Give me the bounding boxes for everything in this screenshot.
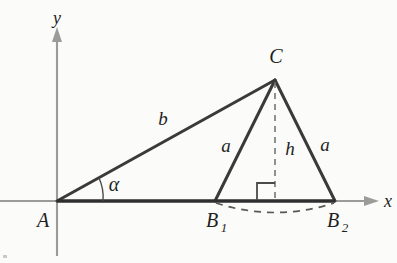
y-axis-label: y: [51, 8, 61, 28]
point-label-B1-subscript: 1: [221, 220, 228, 235]
segment-label-a-right: a: [320, 134, 330, 155]
figure-canvas: y x A C B 1 B 2 b a a h α: [0, 0, 397, 263]
scan-artifact-speck: [3, 255, 7, 258]
point-label-B2: B: [327, 209, 339, 231]
segment-label-h: h: [285, 138, 295, 159]
point-label-B2-subscript: 2: [342, 220, 349, 235]
geometry-diagram: y x A C B 1 B 2 b a a h α: [0, 0, 397, 263]
x-axis-label: x: [383, 191, 392, 211]
angle-label-alpha: α: [109, 173, 120, 195]
point-label-A: A: [35, 209, 50, 231]
point-label-B1: B: [206, 209, 218, 231]
segment-label-b: b: [158, 108, 168, 129]
segment-label-a-left: a: [221, 135, 231, 156]
point-label-C: C: [269, 45, 283, 67]
